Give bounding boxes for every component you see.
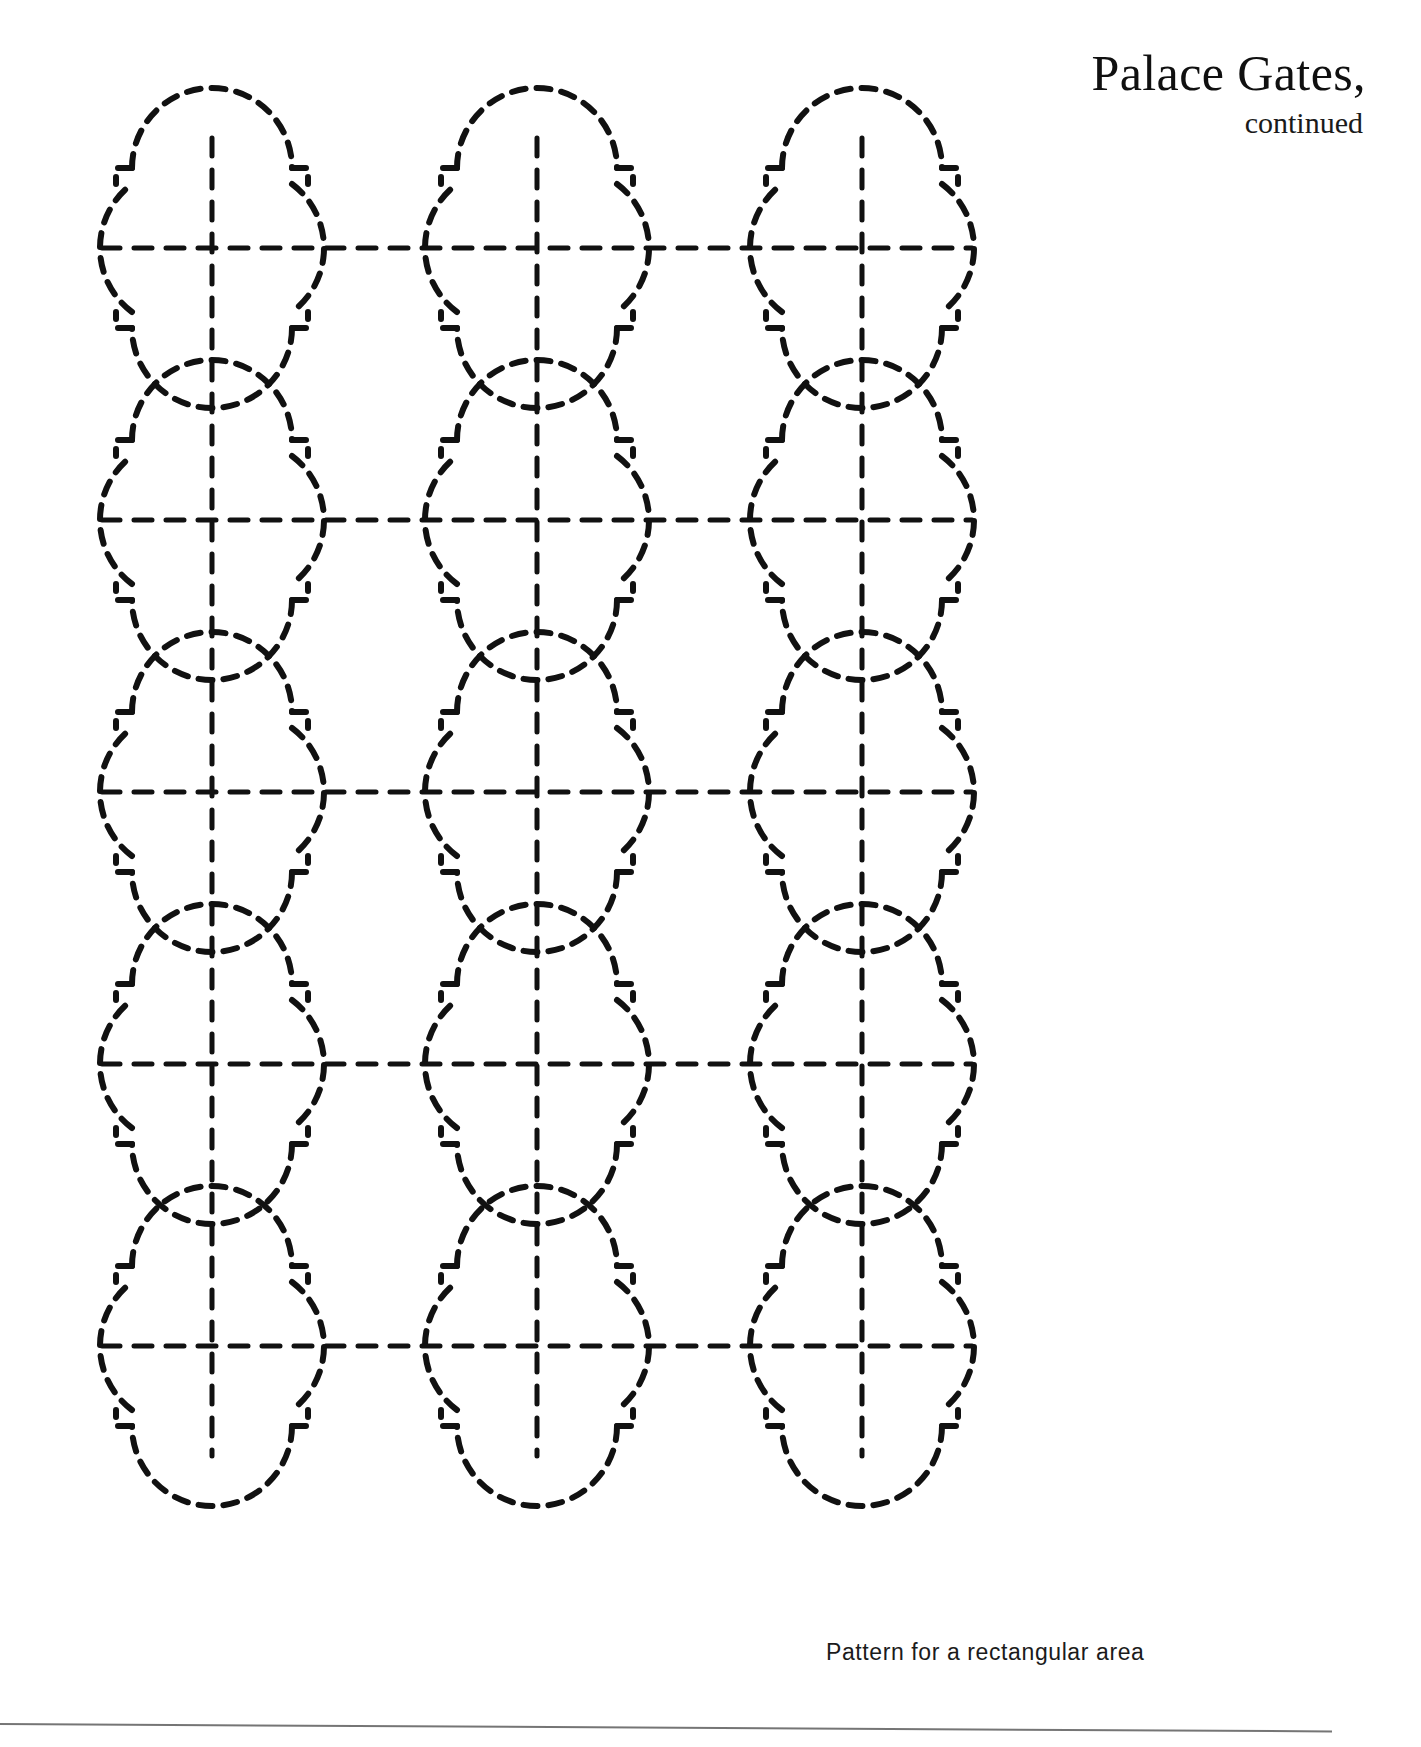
motif-notch: [766, 984, 782, 1000]
motif-notch: [292, 984, 308, 1000]
pattern-page: Palace Gates, continued Pattern for a re…: [0, 0, 1421, 1747]
motif-notch: [942, 584, 958, 600]
motif-notch: [617, 584, 633, 600]
motif-notch: [766, 1410, 782, 1426]
motif-notch: [292, 712, 308, 728]
page-title: Palace Gates,: [1091, 48, 1366, 98]
motif-notch: [766, 1128, 782, 1144]
motif-notch: [766, 440, 782, 456]
axis-guide-layer: [102, 138, 972, 1456]
motif-notch: [441, 712, 457, 728]
motif-notch: [617, 440, 633, 456]
motif-notch: [116, 584, 132, 600]
motif-notch: [116, 312, 132, 328]
motif-notch: [441, 168, 457, 184]
title-block: Palace Gates, continued: [1091, 48, 1366, 138]
motif-notch: [441, 984, 457, 1000]
motif-notch: [292, 440, 308, 456]
motif-notch: [116, 1128, 132, 1144]
motif-notch: [617, 312, 633, 328]
pattern-caption: Pattern for a rectangular area: [826, 1639, 1144, 1666]
motif-notch: [766, 584, 782, 600]
motif-notch: [942, 1128, 958, 1144]
motif-notch: [292, 856, 308, 872]
motif-notch: [292, 1266, 308, 1282]
quatrefoil-pattern-svg: [0, 0, 1000, 1600]
motif-notch: [292, 1410, 308, 1426]
motif-notch: [441, 1410, 457, 1426]
motif-notch: [617, 712, 633, 728]
motif-notch: [617, 1128, 633, 1144]
motif-notch: [116, 712, 132, 728]
motif-notch: [766, 1266, 782, 1282]
motif-notch: [441, 440, 457, 456]
motif-notch: [766, 712, 782, 728]
motif-notch: [617, 1410, 633, 1426]
motif-notch: [617, 856, 633, 872]
motif-notch: [942, 984, 958, 1000]
motif-notch: [441, 1128, 457, 1144]
motif-notch: [766, 856, 782, 872]
motif-notch: [116, 1410, 132, 1426]
motif-notch: [441, 1266, 457, 1282]
motif-notch: [441, 312, 457, 328]
footer-rule: [0, 1723, 1332, 1732]
motif-notch: [441, 856, 457, 872]
motif-notch: [441, 584, 457, 600]
motif-notch: [766, 312, 782, 328]
motif-notch: [292, 312, 308, 328]
pattern-figure: [0, 0, 1000, 1600]
motif-notch: [617, 168, 633, 184]
motif-notch: [942, 1266, 958, 1282]
motif-notch: [617, 984, 633, 1000]
motif-notch: [116, 984, 132, 1000]
motif-notch: [766, 168, 782, 184]
motif-notch: [116, 440, 132, 456]
motif-notch: [942, 440, 958, 456]
motif-notch: [942, 168, 958, 184]
motif-notch: [116, 168, 132, 184]
page-subtitle: continued: [1091, 108, 1363, 138]
motif-notch: [942, 856, 958, 872]
motif-notch: [116, 856, 132, 872]
motif-notch: [942, 1410, 958, 1426]
motif-notch: [292, 168, 308, 184]
motif-notch: [116, 1266, 132, 1282]
motif-notch: [942, 712, 958, 728]
motif-notch: [292, 584, 308, 600]
motif-notch: [617, 1266, 633, 1282]
motif-notch: [942, 312, 958, 328]
motif-notch: [292, 1128, 308, 1144]
